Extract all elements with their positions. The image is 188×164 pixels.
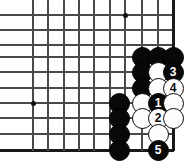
grid-line-vertical-0 (32, 0, 34, 151)
grid-line-horizontal-1 (0, 29, 174, 31)
grid-line-vertical-5 (109, 0, 111, 151)
grid-line-horizontal-6 (0, 102, 174, 104)
grid-line-vertical-8 (157, 0, 159, 151)
grid-line-vertical-2 (63, 0, 65, 151)
grid-line-horizontal-4 (0, 71, 174, 73)
grid-line-horizontal-3 (0, 56, 174, 58)
grid-line-vertical-6 (124, 0, 126, 151)
grid-line-horizontal-7 (0, 117, 174, 119)
grid-line-horizontal-2 (0, 44, 174, 46)
board-grid (0, 0, 188, 164)
grid-line-vertical-1 (47, 0, 49, 151)
hoshi-left-star-point-icon (31, 101, 36, 106)
grid-line-horizontal-8 (0, 133, 174, 135)
grid-line-vertical-4 (93, 0, 95, 151)
board-edge-line-right (172, 0, 175, 151)
grid-line-horizontal-5 (0, 87, 174, 89)
hoshi-top-star-point-icon (123, 13, 128, 18)
grid-line-vertical-7 (141, 0, 143, 151)
go-board-diagram: 34125 (0, 0, 188, 164)
board-edge-line-bottom (0, 149, 174, 152)
grid-line-horizontal-0 (0, 14, 174, 16)
grid-line-vertical-3 (78, 0, 80, 151)
